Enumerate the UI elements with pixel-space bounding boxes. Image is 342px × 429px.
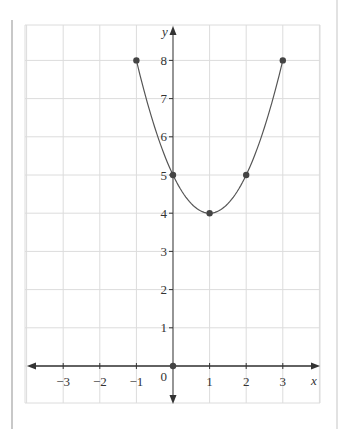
y-tick-label: 2 [161,282,168,297]
y-axis-label: y [160,24,168,39]
data-point [133,57,139,63]
y-tick-label: 6 [161,129,168,144]
data-point [206,210,212,216]
y-axis-up-arrow-icon [170,26,177,35]
y-tick-label: 5 [161,168,168,183]
origin-label: 0 [161,369,168,384]
axes [27,26,320,404]
x-axis-right-arrow-icon [311,363,320,370]
data-point [170,363,176,369]
data-point [170,172,176,178]
x-tick-label: 3 [280,374,287,389]
x-tick-label: −2 [93,374,107,389]
y-tick-label: 4 [161,206,168,221]
x-axis-label: x [310,373,317,388]
x-tick-label: −3 [56,374,70,389]
parabola-chart: −3−2−1123123456780xy [0,0,342,429]
x-axis-left-arrow-icon [27,363,36,370]
data-point [243,172,249,178]
data-point [280,57,286,63]
y-tick-label: 7 [161,91,168,106]
y-tick-label: 8 [161,53,168,68]
y-tick-label: 3 [161,244,168,259]
y-tick-label: 1 [161,320,168,335]
x-tick-label: 2 [243,374,250,389]
x-tick-label: 1 [206,374,213,389]
x-tick-label: −1 [129,374,143,389]
